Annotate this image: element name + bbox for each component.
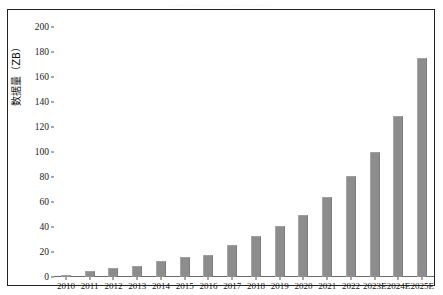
x-axis-tick-label: 2010: [57, 281, 75, 291]
bar-series: 2010201120122013201420152016201720182019…: [54, 27, 434, 277]
bar: [298, 215, 308, 278]
y-axis-tick-label: 100: [35, 147, 49, 157]
x-axis-tick-mark: [398, 277, 399, 280]
y-axis-tick-label: 0: [44, 272, 49, 282]
y-axis-tick-label: 160: [35, 72, 49, 82]
x-axis-tick-label: 2022: [342, 281, 360, 291]
bar: [370, 152, 380, 277]
x-axis-tick-mark: [232, 277, 233, 280]
bar: [203, 255, 213, 278]
y-axis-tick-label: 200: [35, 22, 49, 32]
bar: [417, 58, 427, 277]
x-axis-tick-mark: [113, 277, 114, 280]
cut-off-caption: ................. ....... ........... ..…: [0, 0, 443, 9]
bar: [108, 268, 118, 277]
bar-slot: 2023E: [363, 27, 387, 277]
bar: [251, 236, 261, 277]
bar-slot: 2025E: [410, 27, 434, 277]
bar-slot: 2012: [102, 27, 126, 277]
x-axis-tick-label: 2016: [199, 281, 217, 291]
bar-slot: 2010: [54, 27, 78, 277]
x-axis-tick-label: 2019: [271, 281, 289, 291]
x-axis-tick-mark: [279, 277, 280, 280]
x-axis-tick-label: 2011: [81, 281, 99, 291]
y-axis-tick-label: 80: [40, 172, 50, 182]
bar-slot: 2013: [125, 27, 149, 277]
bar-slot: 2014: [149, 27, 173, 277]
x-axis-tick-label: 2023E: [363, 281, 387, 291]
bar: [227, 245, 237, 278]
bar-slot: 2019: [268, 27, 292, 277]
x-axis-tick-label: 2025E: [410, 281, 434, 291]
y-axis-tick-label: 60: [40, 197, 50, 207]
x-axis-tick-label: 2012: [104, 281, 122, 291]
x-axis-tick-mark: [137, 277, 138, 280]
bar-slot: 2024E: [387, 27, 411, 277]
x-axis-tick-mark: [89, 277, 90, 280]
x-axis-tick-mark: [303, 277, 304, 280]
bar: [156, 261, 166, 277]
bar-slot: 2018: [244, 27, 268, 277]
bar: [275, 226, 285, 277]
bar: [393, 116, 403, 277]
bar: [346, 176, 356, 277]
y-axis-tick-label: 20: [40, 247, 50, 257]
bar-slot: 2020: [292, 27, 316, 277]
y-axis-title: 数据量（ZB）: [10, 29, 24, 119]
y-axis-tick-label: 180: [35, 47, 49, 57]
bar-slot: 2021: [315, 27, 339, 277]
x-axis-tick-mark: [208, 277, 209, 280]
bar-slot: 2022: [339, 27, 363, 277]
bar-slot: 2011: [78, 27, 102, 277]
plot-area: 020406080100120140160180200 201020112012…: [54, 27, 434, 277]
x-axis-tick-label: 2013: [128, 281, 146, 291]
x-axis-tick-mark: [255, 277, 256, 280]
bar: [180, 257, 190, 277]
y-axis-tick-label: 120: [35, 122, 49, 132]
x-axis-tick-label: 2017: [223, 281, 241, 291]
x-axis-tick-mark: [350, 277, 351, 280]
x-axis-tick-mark: [184, 277, 185, 280]
x-axis-tick-mark: [65, 277, 66, 280]
x-axis-tick-label: 2024E: [387, 281, 411, 291]
bar-slot: 2016: [197, 27, 221, 277]
x-axis-tick-mark: [160, 277, 161, 280]
bar: [322, 197, 332, 277]
x-axis-tick-label: 2014: [152, 281, 170, 291]
chart-frame: 数据量（ZB） 020406080100120140160180200 2010…: [7, 9, 435, 286]
x-axis-tick-label: 2021: [318, 281, 336, 291]
y-axis-tick-label: 40: [40, 222, 50, 232]
bar-slot: 2015: [173, 27, 197, 277]
x-axis-tick-label: 2018: [247, 281, 265, 291]
x-axis-tick-mark: [422, 277, 423, 280]
bar: [132, 266, 142, 277]
y-axis-tick-label: 140: [35, 97, 49, 107]
x-axis-tick-label: 2020: [294, 281, 312, 291]
x-axis-tick-mark: [327, 277, 328, 280]
x-axis-tick-label: 2015: [176, 281, 194, 291]
x-axis-tick-mark: [374, 277, 375, 280]
bar-slot: 2017: [220, 27, 244, 277]
